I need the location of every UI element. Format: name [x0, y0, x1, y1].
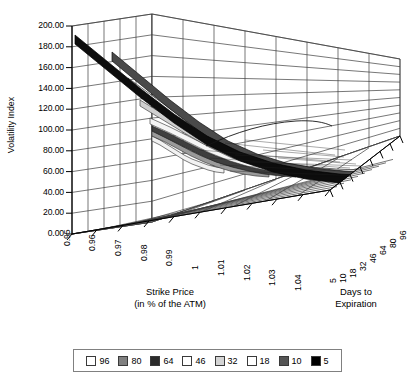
z-axis-title-line1: Days to [316, 286, 396, 298]
volatility-surface-chart: 200.00 180.00 160.00 140.00 120.00 100.0… [0, 0, 415, 391]
legend-item[interactable]: 5 [311, 356, 329, 366]
y-tick-label: 40.00 [20, 188, 64, 197]
y-axis-title: Volatility Index [6, 80, 16, 170]
legend-item-label: 18 [260, 356, 270, 366]
legend-item-label: 5 [324, 356, 329, 366]
z-tick-label: 80 [389, 239, 398, 248]
x-tick-label: 1 [191, 265, 200, 270]
y-tick-label: 180.00 [20, 42, 64, 51]
legend-item-label: 64 [163, 356, 173, 366]
legend-item[interactable]: 18 [247, 356, 270, 366]
legend-item[interactable]: 32 [215, 356, 238, 366]
chart-legend: 96 80 64 46 32 18 10 5 [73, 349, 342, 372]
legend-item-label: 46 [195, 356, 205, 366]
z-tick-label: 10 [339, 274, 348, 283]
legend-item-label: 32 [228, 356, 238, 366]
z-tick-label: 64 [379, 246, 388, 255]
x-tick-label: 1.01 [217, 260, 226, 276]
y-tick-label: 20.00 [20, 208, 64, 217]
legend-swatch-icon [182, 356, 192, 366]
x-axis-title-line1: Strike Price [110, 286, 230, 298]
legend-item[interactable]: 96 [86, 356, 109, 366]
legend-item-label: 96 [99, 356, 109, 366]
z-axis-title: Days to Expiration [316, 286, 396, 309]
legend-item[interactable]: 64 [150, 356, 173, 366]
legend-item[interactable]: 10 [279, 356, 302, 366]
y-tick-label: 160.00 [20, 63, 64, 72]
x-tick-label: 1.02 [243, 265, 252, 281]
y-tick-label: 140.00 [20, 84, 64, 93]
z-tick-label: 46 [369, 254, 378, 263]
legend-item[interactable]: 46 [182, 356, 205, 366]
y-tick-label: 80.00 [20, 146, 64, 155]
x-tick-label: 1.04 [294, 275, 303, 291]
x-tick-label: 0.95 [63, 230, 72, 246]
z-tick-label: 5 [329, 278, 338, 283]
x-axis-title-line2: (in % of the ATM) [110, 298, 230, 310]
y-tick-label: 0.00 [20, 229, 64, 238]
y-tick-label: 100.00 [20, 125, 64, 134]
legend-item-label: 10 [292, 356, 302, 366]
legend-swatch-icon [247, 356, 257, 366]
z-tick-label: 18 [349, 269, 358, 278]
y-tick-label: 120.00 [20, 104, 64, 113]
legend-swatch-icon [86, 356, 96, 366]
y-tick-label: 200.00 [20, 21, 64, 30]
legend-swatch-icon [311, 356, 321, 366]
x-tick-label: 0.97 [114, 240, 123, 256]
x-tick-label: 0.99 [165, 250, 174, 266]
y-tick-label: 60.00 [20, 167, 64, 176]
legend-swatch-icon [118, 356, 128, 366]
legend-swatch-icon [150, 356, 160, 366]
legend-item[interactable]: 80 [118, 356, 141, 366]
z-tick-label: 96 [399, 231, 408, 240]
z-tick-label: 32 [359, 262, 368, 271]
x-axis-title: Strike Price (in % of the ATM) [110, 286, 230, 309]
legend-swatch-icon [215, 356, 225, 366]
legend-item-label: 80 [131, 356, 141, 366]
x-tick-label: 1.03 [268, 270, 277, 286]
x-tick-label: 0.96 [88, 235, 97, 251]
legend-swatch-icon [279, 356, 289, 366]
z-axis-title-line2: Expiration [316, 298, 396, 310]
x-tick-label: 0.98 [140, 245, 149, 261]
